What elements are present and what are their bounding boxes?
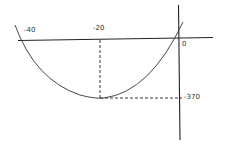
parabola-sketch [0, 0, 225, 145]
y-axis [179, 5, 181, 140]
label-left-root: -40 [24, 27, 35, 34]
label-vertex-x: -20 [93, 25, 104, 32]
label-vertex-y: -370 [184, 94, 200, 101]
parabola-curve [15, 22, 183, 98]
label-origin: 0 [182, 41, 186, 48]
